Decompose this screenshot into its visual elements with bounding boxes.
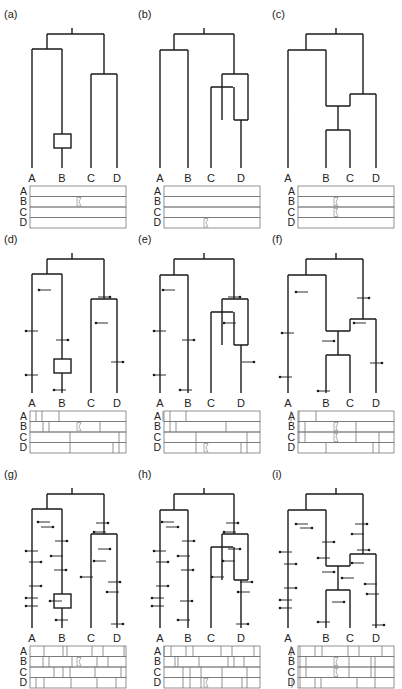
leaf-label-D: D (113, 172, 121, 184)
leaf-label-A: A (284, 632, 292, 644)
alignment-table: ABCD (287, 185, 394, 229)
leaf-label-D: D (237, 172, 245, 184)
alignment-table: ABCD (19, 645, 126, 689)
leaf-label-B: B (184, 397, 191, 409)
leaf-label-D: D (113, 397, 121, 409)
leaf-label-B: B (58, 397, 65, 409)
svg-text:D: D (153, 441, 161, 453)
leaf-label-A: A (284, 172, 292, 184)
leaf-label-D: D (113, 632, 121, 644)
panel-e: (e)ABCDABCD (134, 225, 268, 450)
leaf-label-C: C (87, 632, 95, 644)
svg-text:D: D (287, 441, 295, 453)
leaf-label-C: C (207, 397, 215, 409)
panel-i: (i)ABCDABCD (268, 460, 402, 685)
leaf-label-C: C (346, 172, 354, 184)
panel-a: (a)ABCDABCD (0, 0, 134, 225)
leaf-label-B: B (184, 172, 191, 184)
svg-text:D: D (287, 676, 295, 688)
leaf-label-D: D (372, 632, 380, 644)
leaf-label-D: D (372, 172, 380, 184)
leaf-label-A: A (28, 397, 36, 409)
leaf-label-A: A (28, 172, 36, 184)
leaf-label-C: C (87, 172, 95, 184)
leaf-label-B: B (322, 632, 329, 644)
alignment-table: ABCD (19, 410, 126, 454)
leaf-label-B: B (322, 397, 329, 409)
panel-d: (d)ABCDABCD (0, 225, 134, 450)
leaf-label-B: B (58, 172, 65, 184)
leaf-label-B: B (322, 172, 329, 184)
phylogenetic-tree: ABCDABCD (134, 0, 268, 225)
phylogenetic-tree: ABCDABCD (0, 460, 134, 685)
panel-h: (h)ABCDABCD (134, 460, 268, 685)
phylogenetic-tree: ABCDABCD (0, 225, 134, 450)
phylogenetic-tree: ABCDABCD (134, 225, 268, 450)
phylogenetic-tree: ABCDABCD (0, 0, 134, 225)
alignment-table: ABCD (153, 185, 260, 229)
leaf-label-C: C (346, 632, 354, 644)
alignment-table: ABCD (153, 410, 260, 454)
phylogenetic-tree: ABCDABCD (268, 460, 402, 685)
leaf-label-C: C (207, 172, 215, 184)
panel-b: (b)ABCDABCD (134, 0, 268, 225)
leaf-label-C: C (207, 632, 215, 644)
leaf-label-A: A (28, 632, 36, 644)
phylogenetic-tree: ABCDABCD (268, 225, 402, 450)
svg-text:D: D (19, 676, 27, 688)
panel-f: (f)ABCDABCD (268, 225, 402, 450)
panel-c: (c)ABCDABCD (268, 0, 402, 225)
leaf-label-A: A (156, 397, 164, 409)
leaf-label-B: B (58, 632, 65, 644)
svg-text:D: D (153, 676, 161, 688)
leaf-label-D: D (237, 397, 245, 409)
alignment-table: ABCD (287, 645, 394, 689)
leaf-label-D: D (372, 397, 380, 409)
phylogenetic-tree: ABCDABCD (134, 460, 268, 685)
svg-text:D: D (19, 441, 27, 453)
leaf-label-A: A (156, 632, 164, 644)
leaf-label-B: B (184, 632, 191, 644)
leaf-label-A: A (284, 397, 292, 409)
alignment-table: ABCD (153, 645, 260, 689)
leaf-label-C: C (346, 397, 354, 409)
alignment-table: ABCD (19, 185, 126, 229)
alignment-table: ABCD (287, 410, 394, 454)
leaf-label-D: D (237, 632, 245, 644)
leaf-label-A: A (156, 172, 164, 184)
phylogenetic-tree: ABCDABCD (268, 0, 402, 225)
leaf-label-C: C (87, 397, 95, 409)
panel-g: (g)ABCDABCD (0, 460, 134, 685)
